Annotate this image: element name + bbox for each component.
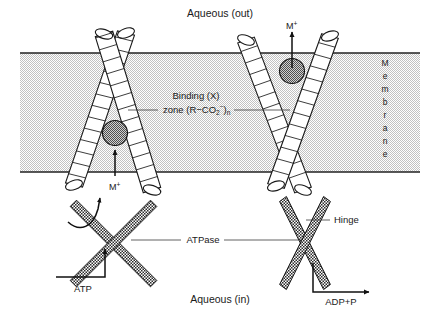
binding-zone-formula-pre: zone (R−CO [163, 104, 216, 115]
membrane-letter-6: n [383, 136, 388, 146]
ion-left-label: M+ [109, 181, 121, 192]
membrane-pump-diagram: Aqueous (out) Aqueous (in) Binding (X) z… [0, 0, 441, 313]
membrane-letter-0: M [381, 58, 388, 68]
aqueous-in-label: Aqueous (in) [190, 293, 250, 305]
ion-right-label: M+ [286, 20, 298, 31]
figure-root: Aqueous (out) Aqueous (in) Binding (X) z… [0, 0, 441, 313]
membrane-letter-7: e [383, 149, 388, 159]
atp-label: ATP [74, 283, 92, 294]
membrane-letter-5: a [383, 123, 388, 133]
ion-left-charge: + [117, 181, 121, 188]
binding-zone-formula-sub: 2 [216, 109, 220, 116]
ion-right-charge: + [294, 20, 298, 27]
membrane-letter-4: r [384, 110, 387, 120]
aqueous-out-label: Aqueous (out) [187, 7, 253, 19]
hinge-label: Hinge [334, 214, 359, 225]
adp-label: ADP+P [325, 296, 356, 307]
binding-zone-label-line1: Binding (X) [173, 90, 220, 101]
membrane-letter-1: e [383, 71, 388, 81]
ion-left [103, 121, 128, 146]
binding-zone-formula-n: n [227, 109, 231, 116]
ion-right-symbol: M [286, 21, 294, 31]
ion-left-symbol: M [109, 182, 117, 192]
membrane-letter-3: b [383, 97, 388, 107]
atpase-right [280, 197, 331, 290]
atpase-label: ATPase [186, 234, 219, 245]
atpase-left [70, 200, 157, 287]
membrane-letter-2: m [381, 84, 388, 94]
